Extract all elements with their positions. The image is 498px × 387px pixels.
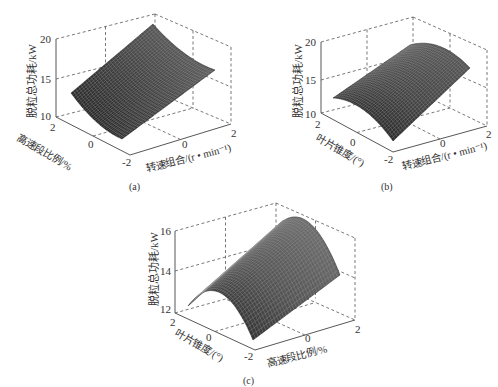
z-axis-label: 脱粒总功耗/kW [147, 231, 160, 306]
y-tick-2: 2 [50, 121, 56, 133]
y-axis-label: 叶片锥度/(°) [314, 131, 368, 170]
x-tick-2: 2 [486, 128, 492, 140]
caption-c: (c) [243, 375, 254, 387]
z-tick-mid: 14 [160, 265, 172, 277]
y-tick-neg2: -2 [122, 156, 131, 168]
y-tick-0: 0 [88, 138, 94, 150]
z-tick-top: 20 [305, 36, 317, 48]
y-tick-neg2: -2 [244, 350, 253, 362]
y-tick-0: 0 [206, 331, 212, 343]
figure: 20 15 10 脱粒总功耗/kW 2 0 -2 高速段比例/% 0 2 转速组… [0, 0, 498, 387]
x-tick-0: 0 [182, 138, 188, 150]
panel-b: 20 15 10 脱粒总功耗/kW 2 0 -2 叶片锥度/(°) 0 2 转速… [291, 17, 492, 193]
y-tick-2: 2 [170, 316, 176, 328]
y-tick-2: 2 [315, 118, 321, 130]
x-tick-0: 0 [440, 137, 446, 149]
x-tick-0: 0 [305, 332, 311, 344]
z-tick-mid: 15 [305, 74, 317, 86]
z-axis-label: 脱粒总功耗/kW [291, 43, 304, 118]
caption-a: (a) [129, 181, 140, 193]
z-axis-label: 脱粒总功耗/kW [25, 43, 38, 118]
y-axis-label: 高速段比例/% [15, 131, 75, 172]
z-tick-bottom: 12 [160, 303, 171, 315]
z-tick-top: 20 [40, 33, 52, 45]
surface-plot [71, 24, 215, 139]
x-tick-2: 2 [231, 127, 237, 139]
x-tick-2: 2 [355, 323, 361, 335]
panel-a: 20 15 10 脱粒总功耗/kW 2 0 -2 高速段比例/% 0 2 转速组… [15, 14, 237, 193]
panel-c: 16 14 12 脱粒总功耗/kW 2 0 -2 叶片锥度/(°) 0 2 高速… [147, 203, 361, 387]
y-axis-label: 叶片锥度/(°) [173, 326, 227, 365]
z-tick-top: 16 [160, 225, 172, 237]
z-tick-mid: 15 [40, 73, 52, 85]
surface-plot [188, 217, 340, 340]
caption-b: (b) [381, 181, 393, 193]
surface-plot [333, 43, 470, 141]
y-tick-0: 0 [350, 136, 356, 148]
y-tick-neg2: -2 [384, 153, 393, 165]
x-axis-label: 高速段比例/% [266, 342, 329, 369]
